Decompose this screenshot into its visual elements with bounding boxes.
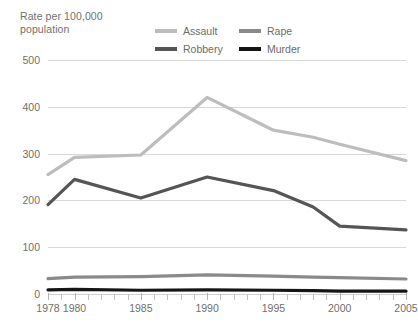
legend-item-rape[interactable]: Rape xyxy=(239,25,319,37)
series-lines xyxy=(48,60,406,294)
x-axis-minor-tick xyxy=(101,294,102,300)
x-axis-tick-label: 1990 xyxy=(195,302,218,314)
legend-item-murder[interactable]: Murder xyxy=(239,43,319,55)
x-axis-minor-tick xyxy=(114,294,115,300)
y-axis-tick-label: 500 xyxy=(8,54,40,66)
legend-label-assault: Assault xyxy=(183,25,217,37)
y-axis-tick-label: 300 xyxy=(8,148,40,160)
x-axis-minor-tick xyxy=(61,294,62,300)
legend-swatch-robbery xyxy=(155,47,177,51)
y-axis-tick-label: 0 xyxy=(8,288,40,300)
x-axis-major-tick xyxy=(141,293,142,300)
series-line-assault xyxy=(48,97,406,174)
x-axis-major-tick xyxy=(207,293,208,300)
x-axis-tick-label: 2000 xyxy=(328,302,351,314)
x-axis-minor-tick xyxy=(181,294,182,300)
legend-swatch-rape xyxy=(239,29,261,33)
x-axis-tick-label: 1985 xyxy=(129,302,152,314)
x-axis-minor-tick xyxy=(300,294,301,300)
legend-item-robbery[interactable]: Robbery xyxy=(155,43,235,55)
legend-swatch-murder xyxy=(239,47,261,51)
series-line-robbery xyxy=(48,177,406,230)
x-axis-minor-tick xyxy=(366,294,367,300)
legend-swatch-assault xyxy=(155,29,177,33)
series-line-rape xyxy=(48,275,406,279)
x-axis-minor-tick xyxy=(326,294,327,300)
x-axis-minor-tick xyxy=(194,294,195,300)
x-axis-tick-label: 1995 xyxy=(262,302,285,314)
x-axis-tick-label: 1978 xyxy=(36,302,59,314)
x-axis-minor-tick xyxy=(88,294,89,300)
x-axis-minor-tick xyxy=(287,294,288,300)
x-axis-tick-label: 1980 xyxy=(63,302,86,314)
x-axis-minor-tick xyxy=(353,294,354,300)
x-axis-minor-tick xyxy=(234,294,235,300)
x-axis-major-tick xyxy=(340,293,341,300)
x-axis-minor-tick xyxy=(313,294,314,300)
y-axis-tick-label: 100 xyxy=(8,241,40,253)
y-axis-tick-label: 200 xyxy=(8,194,40,206)
x-axis-minor-tick xyxy=(393,294,394,300)
x-axis-tick-label: 2005 xyxy=(394,302,417,314)
legend-item-assault[interactable]: Assault xyxy=(155,25,235,37)
chart-legend: Assault Rape Robbery Murder xyxy=(155,22,340,58)
x-axis-major-tick xyxy=(48,293,49,300)
legend-label-rape: Rape xyxy=(267,25,292,37)
x-axis-minor-tick xyxy=(260,294,261,300)
x-axis-major-tick xyxy=(273,293,274,300)
legend-label-robbery: Robbery xyxy=(183,43,223,55)
x-axis-minor-tick xyxy=(247,294,248,300)
series-line-murder xyxy=(48,289,406,291)
y-axis-tick-label: 400 xyxy=(8,101,40,113)
x-axis-minor-tick xyxy=(154,294,155,300)
y-axis-title: Rate per 100,000 population xyxy=(20,10,103,35)
x-axis-minor-tick xyxy=(379,294,380,300)
x-axis-major-tick xyxy=(406,293,407,300)
x-axis-minor-tick xyxy=(167,294,168,300)
plot-area xyxy=(48,60,406,294)
x-axis-major-tick xyxy=(75,293,76,300)
legend-label-murder: Murder xyxy=(267,43,300,55)
x-axis-minor-tick xyxy=(128,294,129,300)
x-axis-minor-tick xyxy=(220,294,221,300)
